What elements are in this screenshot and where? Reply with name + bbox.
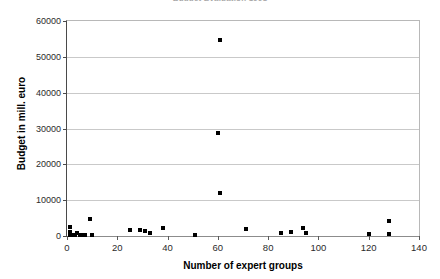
data-point	[68, 225, 72, 229]
x-axis-tick	[369, 236, 370, 240]
data-point	[218, 191, 222, 195]
gridline-horizontal	[67, 57, 419, 58]
gridline-horizontal	[67, 164, 419, 165]
x-axis-tick-label: 60	[213, 242, 224, 253]
data-point	[387, 232, 391, 236]
y-axis-tick-label: 10000	[36, 195, 61, 205]
chart-title: Budget Evaluation 1998	[0, 0, 440, 1]
data-point	[128, 228, 132, 232]
x-axis-tick	[419, 236, 420, 240]
data-point	[88, 217, 92, 221]
plot-area: 0100002000030000400005000060000020406080…	[66, 20, 420, 237]
y-axis-tick-label: 0	[56, 231, 61, 241]
x-axis-tick	[318, 236, 319, 240]
x-axis-tick-label: 20	[112, 242, 123, 253]
data-point	[218, 38, 222, 42]
data-point	[301, 226, 305, 230]
x-axis-tick-label: 80	[263, 242, 274, 253]
y-axis-tick	[63, 93, 67, 94]
x-axis-tick	[268, 236, 269, 240]
gridline-horizontal	[67, 200, 419, 201]
y-axis-tick	[63, 129, 67, 130]
data-point	[83, 233, 87, 237]
y-axis-title: Budget in mill. euro	[16, 59, 27, 189]
data-point	[244, 227, 248, 231]
data-point	[216, 131, 220, 135]
data-point	[148, 231, 152, 235]
y-axis-tick	[63, 164, 67, 165]
gridline-horizontal	[67, 93, 419, 94]
x-axis-tick	[168, 236, 169, 240]
x-axis-tick-label: 100	[310, 242, 326, 253]
data-point	[304, 231, 308, 235]
x-axis-tick-label: 0	[64, 242, 69, 253]
scatter-chart-figure: Budget Evaluation 1998 01000020000300004…	[0, 0, 440, 279]
y-axis-tick	[63, 57, 67, 58]
y-axis-tick-label: 60000	[36, 16, 61, 26]
y-axis-tick-label: 50000	[36, 52, 61, 62]
data-point	[367, 232, 371, 236]
data-point	[387, 219, 391, 223]
data-point	[90, 233, 94, 237]
gridline-horizontal	[67, 129, 419, 130]
x-axis-tick	[218, 236, 219, 240]
x-axis-tick-label: 140	[411, 242, 427, 253]
y-axis-tick-label: 20000	[36, 159, 61, 169]
data-point	[279, 231, 283, 235]
x-axis-title: Number of expert groups	[66, 260, 420, 271]
x-axis-tick	[117, 236, 118, 240]
data-point	[161, 226, 165, 230]
x-axis-tick-label: 120	[361, 242, 377, 253]
y-axis-tick-label: 40000	[36, 88, 61, 98]
data-point	[289, 230, 293, 234]
y-axis-tick	[63, 200, 67, 201]
data-point	[138, 228, 142, 232]
y-axis-tick	[63, 21, 67, 22]
data-point	[193, 233, 197, 237]
y-axis-tick-label: 30000	[36, 124, 61, 134]
data-point	[143, 229, 147, 233]
x-axis-tick-label: 40	[162, 242, 173, 253]
